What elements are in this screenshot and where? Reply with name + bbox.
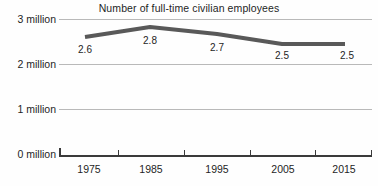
x-tick-label-1995: 1995 — [186, 163, 248, 175]
data-label-2015: 2.5 — [325, 50, 369, 61]
y-axis-labels: 3 million 2 million 1 million 0 million — [0, 0, 56, 186]
y-tick-label-1-million: 1 million — [0, 103, 56, 115]
x-axis-tick-2 — [184, 150, 185, 156]
plot-area — [0, 0, 378, 186]
x-axis-tick-1 — [118, 150, 119, 156]
x-axis-tick-4 — [315, 150, 316, 156]
x-tick-label-2015: 2015 — [316, 163, 372, 175]
y-tick-label-3-million: 3 million — [0, 13, 56, 25]
data-label-1985: 2.8 — [128, 35, 172, 46]
x-axis-tick-3 — [250, 150, 251, 156]
gridline-1-million — [59, 109, 372, 110]
gridline-2-million — [59, 64, 372, 65]
data-label-2005: 2.5 — [260, 50, 304, 61]
x-axis-tick-5 — [371, 150, 372, 156]
x-axis-line — [59, 155, 372, 157]
y-tick-label-0-million: 0 million — [0, 148, 56, 160]
gridline-3-million — [59, 19, 372, 20]
chart-title: Number of full-time civilian employees — [0, 2, 378, 14]
x-tick-label-1985: 1985 — [120, 163, 182, 175]
y-tick-label-2-million: 2 million — [0, 58, 56, 70]
data-label-1995: 2.7 — [195, 42, 239, 53]
x-tick-label-2005: 2005 — [252, 163, 314, 175]
data-label-1975: 2.6 — [63, 44, 107, 55]
x-axis-tick-0 — [59, 148, 60, 156]
x-tick-label-1975: 1975 — [59, 163, 119, 175]
line-chart: Number of full-time civilian employees 3… — [0, 0, 378, 186]
